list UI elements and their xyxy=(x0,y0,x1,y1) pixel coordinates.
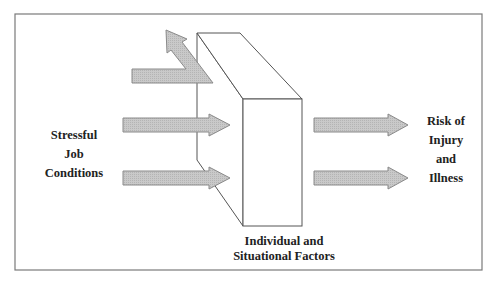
input-arrow-middle xyxy=(123,114,230,136)
label-line: Situational Factors xyxy=(224,249,344,264)
label-line: Illness xyxy=(418,169,474,188)
label-line: Risk of xyxy=(418,112,474,131)
label-line: Conditions xyxy=(40,164,108,183)
label-risk-injury-illness: Risk of Injury and Illness xyxy=(418,112,474,188)
output-arrow-bottom xyxy=(314,167,408,189)
label-line: Individual and xyxy=(224,234,344,249)
label-line: Stressful xyxy=(40,126,108,145)
label-individual-situational-factors: Individual and Situational Factors xyxy=(224,234,344,264)
output-arrow-top xyxy=(314,114,408,136)
label-stressful-job-conditions: Stressful Job Conditions xyxy=(40,126,108,183)
label-line: Injury xyxy=(418,131,474,150)
input-arrow-bottom xyxy=(123,167,230,189)
label-line: and xyxy=(418,150,474,169)
label-line: Job xyxy=(40,145,108,164)
buffer-box-front-face xyxy=(243,99,302,226)
